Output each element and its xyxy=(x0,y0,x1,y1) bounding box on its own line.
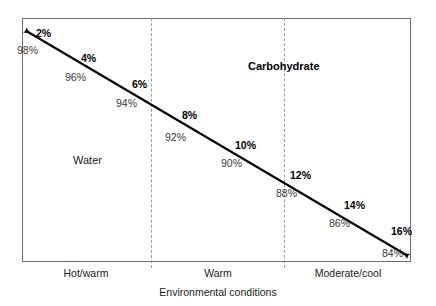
chart-figure: Water Carbohydrate 2% 4% 6% 8% 10% 12% 1… xyxy=(0,0,436,306)
x-tick-label-moderate-cool: Moderate/cool xyxy=(288,268,408,279)
water-value-98: 98% xyxy=(17,45,38,56)
water-value-88: 88% xyxy=(276,188,297,199)
x-axis-title: Environmental conditions xyxy=(118,287,318,298)
carb-value-2: 2% xyxy=(36,28,51,39)
water-value-84: 84% xyxy=(382,248,403,259)
carb-value-14: 14% xyxy=(344,200,365,211)
carb-value-6: 6% xyxy=(132,79,147,90)
carb-value-8: 8% xyxy=(182,110,197,121)
x-tick-label-warm: Warm xyxy=(158,268,278,279)
carb-value-10: 10% xyxy=(235,140,256,151)
carb-value-4: 4% xyxy=(81,53,96,64)
carb-value-12: 12% xyxy=(290,170,311,181)
carb-value-16: 16% xyxy=(391,226,412,237)
x-tick-label-hot-warm: Hot/warm xyxy=(26,268,146,279)
water-value-90: 90% xyxy=(221,158,242,169)
water-value-94: 94% xyxy=(116,98,137,109)
band-divider-warm-moderatecool xyxy=(284,18,285,268)
region-label-carbohydrate: Carbohydrate xyxy=(248,61,320,72)
water-value-92: 92% xyxy=(165,132,186,143)
band-divider-hotwarm-warm xyxy=(151,18,152,268)
region-label-water: Water xyxy=(73,155,102,166)
water-value-86: 86% xyxy=(329,218,350,229)
water-value-96: 96% xyxy=(65,72,86,83)
